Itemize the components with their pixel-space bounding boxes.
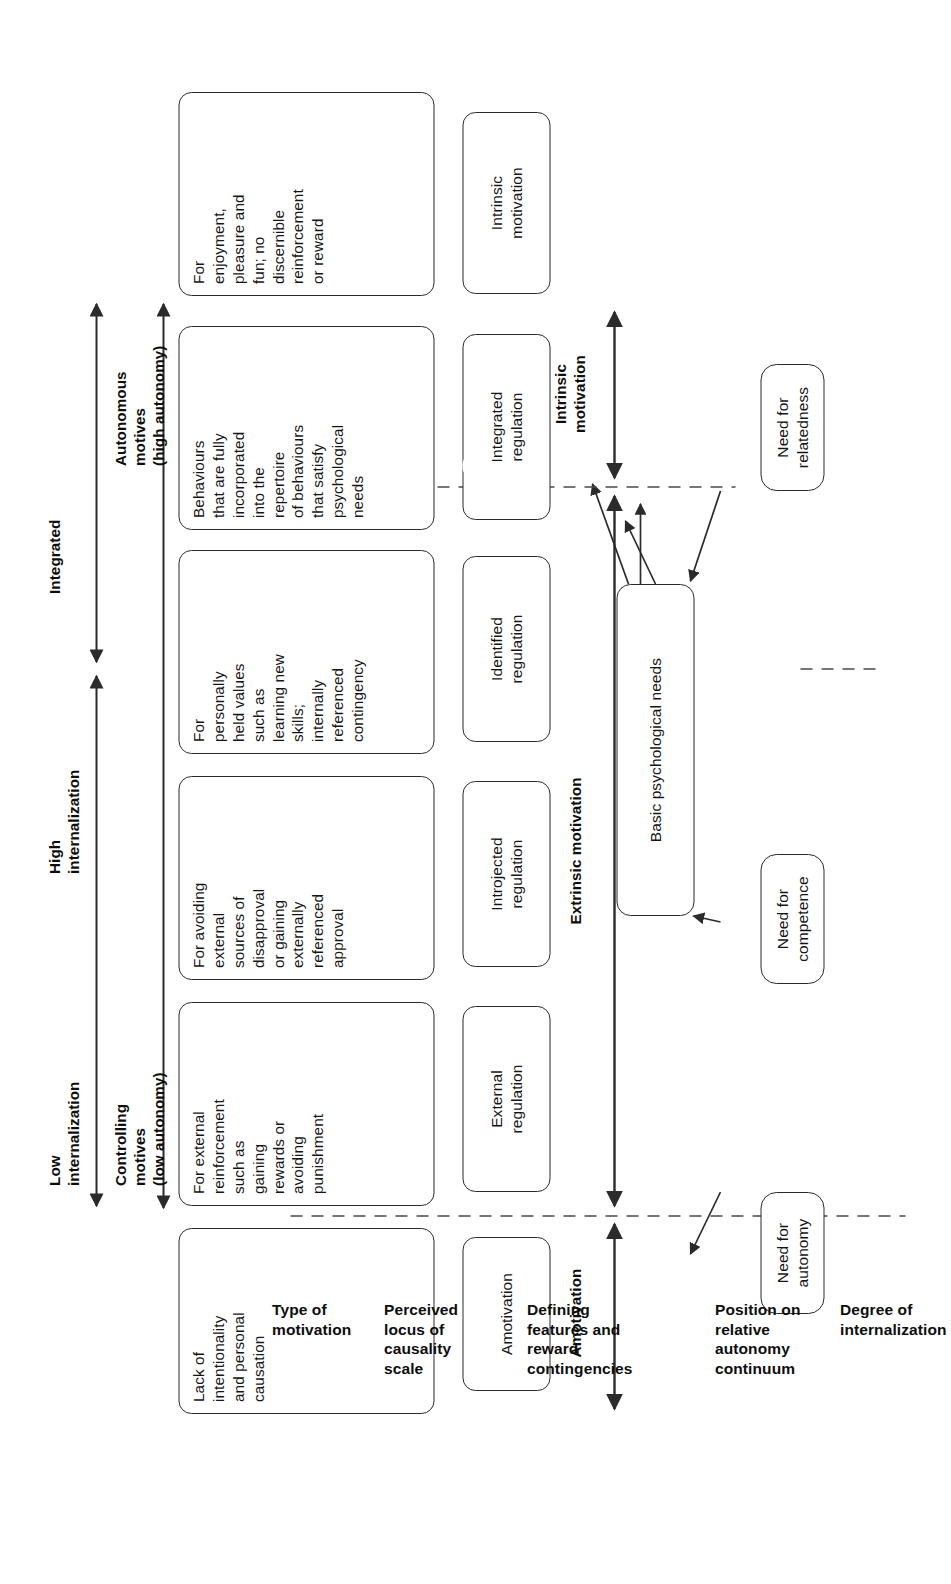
label-extrinsic-motivation-type: Extrinsic motivation [565,726,584,976]
regulation-box-external-regulation: External regulation [462,1006,550,1192]
regulation-box-amotivation: Amotivation [462,1237,550,1391]
description-box-introjected-regulation: For avoiding external sources of disappr… [178,776,434,980]
regulation-box-integrated-regulation: Integrated regulation [462,334,550,520]
regulation-box-introjected-regulation: Introjected regulation [462,781,550,967]
need-for-competence-box: Need for competence [760,854,824,984]
label-controlling-motives-visible: Controlling motives (low autonomy) [110,986,167,1186]
label-low-internalization: Low internalization [44,996,82,1186]
basic-psychological-needs-box: Basic psychological needs [616,584,694,916]
label-amotivation-type: Amotivation [565,1238,584,1388]
label-autonomous-motives: Autonomous motives (high autonomy) [110,266,167,466]
description-box-amotivation: Lack of intentionality and personal caus… [178,1228,434,1414]
need-connectors [690,491,720,1254]
label-intrinsic-motivation-type: Intrinsic motivation [550,318,588,470]
regulation-box-intrinsic-motivation-visible: Intrinsic motivation [462,112,550,294]
description-box-integrated-regulation: Behaviours that are fully incorporated i… [178,326,434,530]
description-box-intrinsic-motivation: For enjoyment, pleasure and fun; no disc… [178,92,434,296]
description-box-identified-regulation: For personally held values such as learn… [178,550,434,754]
need-for-autonomy-box: Need for autonomy [760,1192,824,1314]
regulation-box-identified-regulation: Identified regulation [462,556,550,742]
label-integrated-internalization: Integrated [44,404,63,594]
need-for-relatedness-box: Need for relatedness [760,364,824,491]
regulation-box-intrinsic [462,456,478,476]
needs-to-regulation-arrows [592,484,655,584]
label-high-internalization: High internalization [44,684,82,874]
description-box-external-regulation: For external reinforcement such as gaini… [178,1002,434,1206]
